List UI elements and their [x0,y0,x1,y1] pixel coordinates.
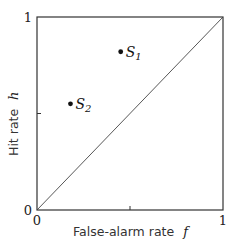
x-axis-label-text: False-alarm rate [73,224,174,239]
y-tick-label: 0 [24,203,32,218]
x-tick-label: 0 [33,213,41,228]
y-axis-label-var: h [6,92,21,100]
data-point-s1 [118,49,123,54]
y-axis-label: Hit rate h [6,92,21,157]
x-axis-label: False-alarm rate f [73,224,190,239]
y-axis-label-text: Hit rate [6,109,21,156]
roc-chart: 0101 S1S2 False-alarm rate f Hit rate h [0,0,237,247]
data-point-s2 [68,101,73,106]
x-tick-label: 1 [219,213,227,228]
y-tick-label: 1 [24,10,32,25]
x-axis-label-var: f [182,224,190,239]
data-point-label: S1 [126,44,142,62]
data-point-label: S2 [75,96,91,114]
